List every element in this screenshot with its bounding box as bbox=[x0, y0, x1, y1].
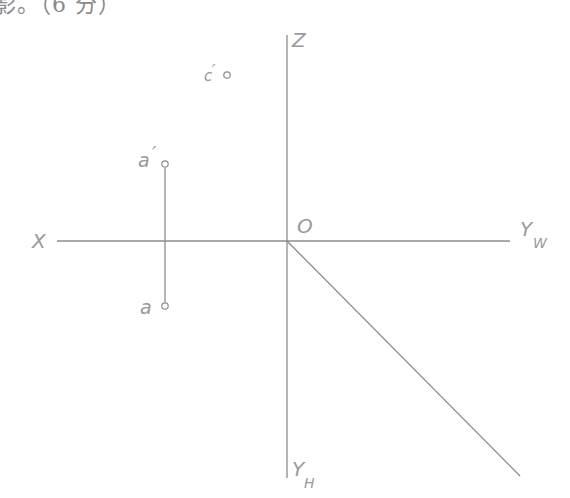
point-a-prime-label: a bbox=[138, 149, 150, 171]
yw-axis-label: Y bbox=[520, 217, 534, 241]
point-a-prime bbox=[162, 161, 168, 167]
x-axis-label: X bbox=[31, 229, 47, 253]
projection-diagram: X Z O Y W Y H a ′ a c ′ bbox=[0, 0, 570, 498]
point-c-prime bbox=[224, 72, 230, 78]
origin-label: O bbox=[297, 214, 313, 238]
point-c-prime-mark: ′ bbox=[212, 62, 216, 80]
z-axis-label: Z bbox=[291, 28, 307, 52]
point-a-prime-mark: ′ bbox=[152, 142, 157, 164]
point-a bbox=[162, 303, 168, 309]
point-a-label: a bbox=[140, 296, 152, 318]
diagonal-45-line bbox=[287, 241, 520, 476]
yw-axis-subscript: W bbox=[533, 235, 548, 251]
yh-axis-subscript: H bbox=[304, 475, 315, 491]
